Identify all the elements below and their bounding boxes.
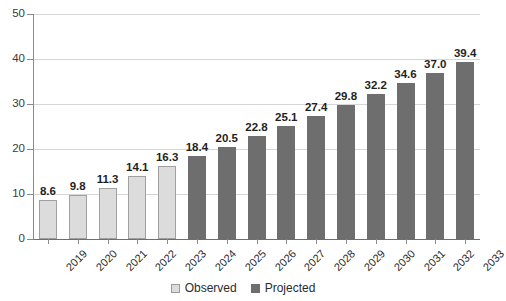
bar-2031: [397, 83, 415, 239]
y-tick-mark: [27, 59, 33, 60]
x-tick-mark: [167, 239, 168, 244]
x-tick-label-2029: 2029: [362, 248, 387, 273]
bar-2026: [248, 136, 266, 239]
y-axis-spine: [33, 14, 34, 240]
y-tick-label: 0: [0, 233, 25, 245]
y-tick-mark: [27, 14, 33, 15]
y-tick-label: 50: [0, 8, 25, 20]
chart-legend: ObservedProjected: [0, 282, 486, 294]
x-tick-mark: [257, 239, 258, 244]
y-tick-label: 10: [0, 188, 25, 200]
bar-value-label-2029: 29.8: [329, 91, 363, 103]
bar-2030: [367, 94, 385, 239]
y-tick-mark: [27, 239, 33, 240]
bar-value-label-2032: 37.0: [418, 59, 452, 71]
bar-value-label-2028: 27.4: [299, 102, 333, 114]
bar-2020: [69, 195, 87, 239]
legend-item-projected: Projected: [251, 282, 316, 294]
x-tick-label-2031: 2031: [422, 248, 447, 273]
bar-2032: [426, 73, 444, 240]
x-tick-label-2020: 2020: [94, 248, 119, 273]
x-tick-label-2032: 2032: [451, 248, 476, 273]
bar-value-label-2030: 32.2: [359, 80, 393, 92]
bar-2028: [307, 116, 325, 239]
gridline-y-40: [33, 59, 480, 60]
x-tick-mark: [316, 239, 317, 244]
y-tick-mark: [27, 104, 33, 105]
legend-swatch-projected: [251, 284, 260, 293]
legend-label: Projected: [265, 282, 316, 294]
x-tick-label-2033: 2033: [481, 248, 506, 273]
x-tick-mark: [286, 239, 287, 244]
bar-value-label-2021: 11.3: [91, 174, 125, 186]
x-tick-label-2027: 2027: [302, 248, 327, 273]
bar-value-label-2031: 34.6: [389, 69, 423, 81]
y-tick-mark: [27, 149, 33, 150]
legend-item-observed: Observed: [171, 282, 237, 294]
x-tick-mark: [108, 239, 109, 244]
x-tick-label-2019: 2019: [64, 248, 89, 273]
x-tick-mark: [406, 239, 407, 244]
x-tick-mark: [435, 239, 436, 244]
bar-2029: [337, 105, 355, 239]
x-tick-mark: [465, 239, 466, 244]
bar-value-label-2026: 22.8: [240, 122, 274, 134]
x-tick-label-2021: 2021: [124, 248, 149, 273]
bar-2025: [218, 147, 236, 239]
x-tick-label-2026: 2026: [273, 248, 298, 273]
bar-2019: [39, 200, 57, 239]
bar-2033: [456, 62, 474, 239]
y-tick-label: 40: [0, 53, 25, 65]
bar-value-label-2027: 25.1: [269, 112, 303, 124]
bar-2024: [188, 156, 206, 239]
bar-2027: [277, 126, 295, 239]
bar-value-label-2022: 14.1: [120, 162, 154, 174]
x-tick-label-2023: 2023: [183, 248, 208, 273]
x-tick-label-2028: 2028: [332, 248, 357, 273]
y-tick-label: 20: [0, 143, 25, 155]
bar-2023: [158, 166, 176, 239]
bar-2022: [128, 176, 146, 239]
gridline-y-50: [33, 14, 480, 15]
x-tick-label-2025: 2025: [243, 248, 268, 273]
x-tick-mark: [346, 239, 347, 244]
x-tick-label-2022: 2022: [153, 248, 178, 273]
y-tick-label: 30: [0, 98, 25, 110]
x-tick-label-2030: 2030: [392, 248, 417, 273]
x-tick-label-2024: 2024: [213, 248, 238, 273]
legend-swatch-observed: [171, 284, 180, 293]
x-tick-mark: [137, 239, 138, 244]
x-tick-mark: [78, 239, 79, 244]
x-tick-mark: [197, 239, 198, 244]
x-tick-mark: [376, 239, 377, 244]
bar-2021: [99, 188, 117, 239]
x-tick-mark: [227, 239, 228, 244]
bar-value-label-2025: 20.5: [210, 133, 244, 145]
legend-label: Observed: [185, 282, 237, 294]
x-tick-mark: [48, 239, 49, 244]
bar-value-label-2033: 39.4: [448, 48, 482, 60]
